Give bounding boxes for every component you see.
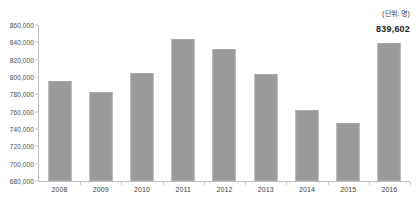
y-tick-label: 760,000 bbox=[0, 108, 34, 115]
bar-2011[interactable] bbox=[172, 39, 195, 181]
y-tick-label: 860,000 bbox=[0, 22, 34, 29]
bar-2012[interactable] bbox=[213, 49, 236, 181]
y-tick-mark bbox=[35, 129, 38, 130]
x-tick-label-2011: 2011 bbox=[176, 186, 191, 193]
y-tick-label: 820,000 bbox=[0, 56, 34, 63]
y-tick-label: 700,000 bbox=[0, 160, 34, 167]
bar-slot bbox=[80, 25, 121, 181]
x-tick-mark bbox=[121, 182, 122, 185]
y-tick-label: 840,000 bbox=[0, 39, 34, 46]
x-tick-label-2016: 2016 bbox=[381, 186, 397, 193]
y-tick-label: 740,000 bbox=[0, 126, 34, 133]
x-tick-mark bbox=[328, 182, 329, 185]
bar-slot bbox=[369, 25, 410, 181]
x-tick-label-2015: 2015 bbox=[340, 186, 356, 193]
bar-slot bbox=[245, 25, 286, 181]
y-tick-mark bbox=[35, 94, 38, 95]
bar-slot bbox=[39, 25, 80, 181]
y-tick-mark bbox=[35, 77, 38, 78]
x-tick-label-2008: 2008 bbox=[52, 186, 68, 193]
y-tick-mark bbox=[35, 181, 38, 182]
y-tick-mark bbox=[35, 163, 38, 164]
bar-2016[interactable] bbox=[378, 43, 401, 181]
chart-screenshot: (단위: 명) 839,602 680,000700,000720,000740… bbox=[0, 0, 418, 212]
bar-2009[interactable] bbox=[89, 92, 112, 181]
x-tick-mark bbox=[410, 182, 411, 185]
y-tick-label: 800,000 bbox=[0, 74, 34, 81]
x-tick-label-2014: 2014 bbox=[299, 186, 315, 193]
y-tick-mark bbox=[35, 25, 38, 26]
x-tick-label-2012: 2012 bbox=[217, 186, 233, 193]
bar-slot bbox=[204, 25, 245, 181]
unit-annotation: (단위: 명) bbox=[382, 8, 410, 18]
y-tick-mark bbox=[35, 59, 38, 60]
x-tick-label-2010: 2010 bbox=[134, 186, 150, 193]
y-tick-label: 720,000 bbox=[0, 143, 34, 150]
bar-2010[interactable] bbox=[131, 73, 154, 181]
y-tick-label: 780,000 bbox=[0, 91, 34, 98]
x-axis-line bbox=[38, 181, 410, 182]
y-tick-label: 680,000 bbox=[0, 178, 34, 185]
bar-slot bbox=[286, 25, 327, 181]
x-tick-mark bbox=[204, 182, 205, 185]
y-tick-mark bbox=[35, 111, 38, 112]
bar-series bbox=[39, 25, 410, 181]
x-tick-mark bbox=[245, 182, 246, 185]
x-tick-mark bbox=[163, 182, 164, 185]
bar-slot bbox=[328, 25, 369, 181]
x-tick-mark bbox=[286, 182, 287, 185]
x-tick-mark bbox=[80, 182, 81, 185]
bar-2013[interactable] bbox=[254, 74, 277, 181]
bar-slot bbox=[163, 25, 204, 181]
x-tick-label-2009: 2009 bbox=[93, 186, 109, 193]
bar-2014[interactable] bbox=[295, 110, 318, 181]
x-tick-mark bbox=[369, 182, 370, 185]
bar-2008[interactable] bbox=[48, 81, 71, 181]
bar-slot bbox=[121, 25, 162, 181]
bar-2015[interactable] bbox=[337, 123, 360, 181]
plot-area bbox=[38, 25, 410, 182]
x-tick-label-2013: 2013 bbox=[258, 186, 274, 193]
y-tick-mark bbox=[35, 42, 38, 43]
y-tick-mark bbox=[35, 146, 38, 147]
